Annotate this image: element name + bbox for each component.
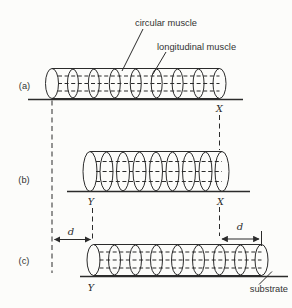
distance-label-left: d [68,226,74,237]
row-label-b: (b) [18,175,29,185]
marker-y-row-b: Y [88,196,96,207]
circular-muscle-leader-line [122,29,143,71]
row-label-a: (a) [19,81,30,91]
marker-x-row-b: X [216,196,225,207]
worm-extended-a [46,69,227,99]
peristalsis-diagram: circular muscle longitudinal muscle (a) … [0,0,292,308]
row-label-c: (c) [19,256,30,266]
worm-end-cap-left [87,245,100,276]
longitudinal-muscle-label: longitudinal muscle [157,42,236,52]
distance-label-right: d [237,221,243,232]
worm-end-cap-left [46,69,59,99]
marker-x-row-a: X [215,103,224,114]
figure-canvas: circular muscle longitudinal muscle (a) … [0,0,292,308]
circular-muscle-label: circular muscle [135,18,197,28]
substrate-label: substrate [250,284,288,294]
worm-extended-c [87,245,268,276]
worm-end-cap-left [83,152,97,192]
worm-contracted-b [83,152,229,192]
diagram-ink-layer: circular muscle longitudinal muscle (a) … [18,18,288,294]
marker-y-row-c: Y [88,282,96,293]
